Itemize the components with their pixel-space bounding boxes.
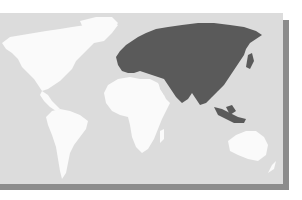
region-new-zealand bbox=[268, 161, 276, 173]
map-frame bbox=[0, 13, 283, 184]
frame-shadow-right bbox=[283, 20, 289, 190]
region-south-america bbox=[46, 109, 88, 179]
region-australia bbox=[228, 131, 268, 161]
world-map-figure bbox=[0, 0, 302, 200]
region-central-america bbox=[40, 91, 60, 111]
world-map-svg bbox=[0, 13, 283, 184]
region-madagascar bbox=[160, 129, 164, 143]
frame-shadow-bottom bbox=[0, 184, 289, 190]
region-japan bbox=[246, 53, 254, 69]
